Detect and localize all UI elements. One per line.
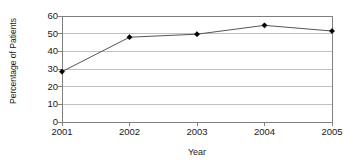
x-tick-label: 2002 (110, 126, 150, 137)
x-axis-title: Year (62, 147, 332, 157)
x-tick-label: 2003 (177, 126, 217, 137)
plot-area (0, 0, 360, 165)
x-tick-label: 2005 (312, 126, 352, 137)
x-tick-label: 2004 (245, 126, 285, 137)
data-point-marker (59, 69, 64, 74)
data-point-marker (127, 35, 132, 40)
gridlines (58, 16, 332, 122)
x-tick-label: 2001 (42, 126, 82, 137)
data-point-marker (329, 28, 334, 33)
data-point-marker (194, 32, 199, 37)
line-chart: Percentage of Patients 0102030405060 200… (0, 0, 360, 165)
data-series (59, 23, 334, 74)
data-point-marker (262, 23, 267, 28)
